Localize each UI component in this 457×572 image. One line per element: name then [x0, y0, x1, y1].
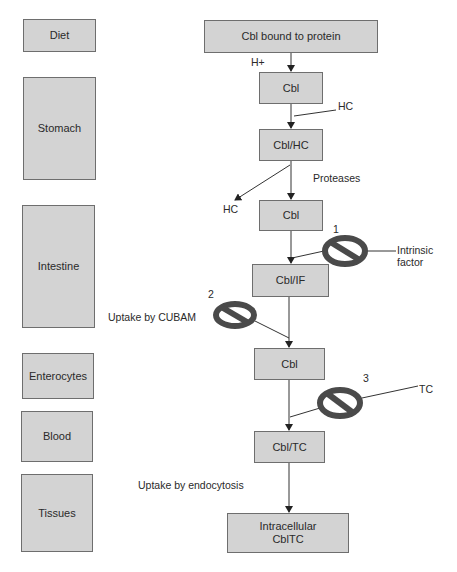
node-label: Cbl/IF	[276, 274, 305, 287]
intrinsic-line1: Intrinsic	[397, 244, 433, 256]
stage-enterocytes: Enterocytes	[22, 353, 94, 399]
proteases-label: Proteases	[313, 172, 360, 184]
stage-intestine: Intestine	[22, 205, 95, 328]
node-cbl-if: Cbl/IF	[252, 264, 329, 297]
stage-label: Enterocytes	[29, 370, 87, 383]
node-cbl-stomach: Cbl	[259, 72, 323, 104]
node-label: Cbl bound to protein	[241, 30, 340, 43]
node-cbl-tc: Cbl/TC	[254, 431, 325, 463]
prohibition-sign-2-icon	[216, 304, 254, 326]
node-label: Cbl	[283, 209, 300, 222]
block-2-number: 2	[208, 288, 214, 300]
stage-label: Tissues	[38, 507, 76, 520]
node-cbl-intestine: Cbl	[259, 200, 323, 231]
stage-blood: Blood	[21, 411, 93, 462]
node-label: Cbl	[283, 82, 300, 95]
node-cbl-bound-to-protein: Cbl bound to protein	[204, 20, 378, 53]
node-label: Cbl/TC	[272, 441, 306, 454]
h-plus-label: H+	[251, 56, 265, 68]
node-cbl-hc: Cbl/HC	[259, 129, 323, 161]
intrinsic-factor-label: Intrinsicfactor	[397, 244, 433, 268]
stage-diet: Diet	[23, 19, 96, 52]
prohibition-sign-1-icon	[325, 238, 365, 264]
hc-in-label: HC	[338, 100, 353, 112]
block-3-number: 3	[363, 372, 369, 384]
uptake-cubam-label: Uptake by CUBAM	[108, 311, 196, 323]
prohibition-sign-3-icon	[320, 390, 360, 416]
tc-label: TC	[419, 383, 433, 395]
stage-label: Intestine	[38, 260, 80, 273]
stage-label: Diet	[50, 29, 70, 42]
hc-out-label: HC	[223, 203, 238, 215]
stage-tissues: Tissues	[21, 474, 93, 552]
node-label: Cbl/HC	[273, 139, 308, 152]
stage-stomach: Stomach	[23, 77, 96, 180]
node-label: Intracellular CblTC	[258, 520, 318, 546]
stage-label: Blood	[43, 430, 71, 443]
uptake-endocytosis-label: Uptake by endocytosis	[138, 479, 244, 491]
intrinsic-line2: factor	[397, 256, 423, 268]
node-cbl-enterocytes: Cbl	[254, 348, 325, 380]
node-label: Cbl	[281, 358, 298, 371]
block-1-number: 1	[333, 223, 339, 235]
node-intracellular-cbltc: Intracellular CblTC	[227, 513, 349, 553]
stage-label: Stomach	[38, 122, 81, 135]
